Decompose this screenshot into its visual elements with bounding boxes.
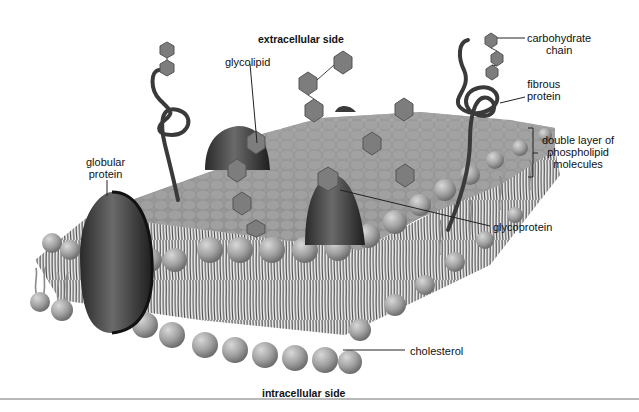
fibrous-protein-left xyxy=(153,70,189,200)
globular-protein-shape xyxy=(80,192,152,333)
double-layer-label: double layer of phospholipid molecules xyxy=(542,134,614,170)
small-back-protein xyxy=(335,106,356,112)
fibrous-protein-label: fibrous protein xyxy=(527,78,561,102)
carbohydrate-links xyxy=(167,48,497,99)
cell-membrane-diagram: extracellular side intracellular side ca… xyxy=(0,0,639,412)
cholesterol-label: cholesterol xyxy=(410,345,463,357)
globular-protein-label: globular protein xyxy=(86,156,125,180)
extracellular-side-label: extracellular side xyxy=(258,33,344,45)
carbohydrate-chain-label: carbohydrate chain xyxy=(527,32,591,56)
membrane-illustration xyxy=(0,0,639,412)
bottom-divider xyxy=(0,398,639,400)
glycolipid-label: glycolipid xyxy=(225,56,270,68)
glycoprotein-label: glycoprotein xyxy=(493,221,552,233)
